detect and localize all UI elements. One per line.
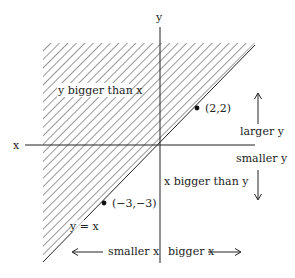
region-label-upper: y bigger than x [57, 84, 143, 97]
y-axis-label: y [155, 11, 163, 24]
x-axis-label: x [13, 139, 20, 152]
point-label-2-2: (2,2) [205, 102, 231, 115]
bigger-x-label: bigger x [168, 245, 215, 258]
smaller-x-label: smaller x [108, 245, 160, 258]
point-2-2 [195, 106, 200, 111]
region-label-lower: x bigger than y [164, 175, 249, 188]
larger-y-label: larger y [240, 125, 285, 138]
line-label-y-equals-x: y = x [69, 220, 99, 233]
point-label-neg3-neg3: (−3,−3) [112, 197, 157, 210]
inequality-diagram: x y y bigger than x x bigger than y (2,2… [0, 0, 295, 278]
point-neg3-neg3 [102, 201, 107, 206]
smaller-y-label: smaller y [236, 152, 288, 165]
